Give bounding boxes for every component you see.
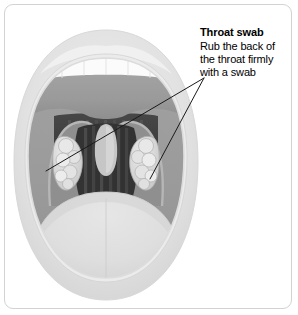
callout-body-line-2: the throat firmly (200, 53, 292, 66)
callout: Throat swab Rub the back of the throat f… (200, 26, 292, 80)
mouth-illustration (6, 16, 206, 308)
oral-cavity (6, 16, 206, 308)
uvula (95, 124, 117, 176)
figure-root: Throat swab Rub the back of the throat f… (0, 0, 298, 315)
callout-body-line-3: with a swab (200, 66, 292, 79)
callout-title: Throat swab (200, 26, 292, 39)
callout-body-line-1: Rub the back of (200, 40, 292, 53)
callout-body: Rub the back of the throat firmly with a… (200, 40, 292, 80)
